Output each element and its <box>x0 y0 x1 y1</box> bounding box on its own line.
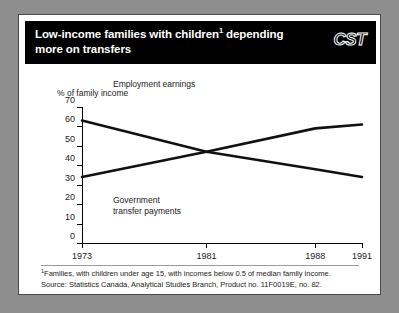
header-bar: Low-income families with children1 depen… <box>25 21 376 64</box>
page-title: Low-income families with children1 depen… <box>35 27 305 56</box>
chart-plot-area: % of family income 010203040506070 19731… <box>19 64 380 294</box>
figure-panel: Low-income families with children1 depen… <box>18 14 381 295</box>
cst-logo: CST <box>334 30 367 50</box>
title-line1: Low-income families with children <box>35 28 219 40</box>
footnote-line-1: 1Families, with children under age 15, w… <box>41 269 371 280</box>
series-label-employment: Employment earnings <box>113 79 195 90</box>
footnote-line-2: Source: Statistics Canada, Analytical St… <box>41 280 371 291</box>
series-label-transfers: Governmenttransfer payments <box>113 195 181 217</box>
title-line1-tail: depending <box>223 28 283 40</box>
series-lines <box>19 64 380 294</box>
title-line2: more on transfers <box>35 43 131 55</box>
footnote-block: 1Families, with children under age 15, w… <box>41 269 371 290</box>
footnote-text-1: Families, with children under age 15, wi… <box>44 269 331 278</box>
footnote-divider <box>41 265 359 266</box>
